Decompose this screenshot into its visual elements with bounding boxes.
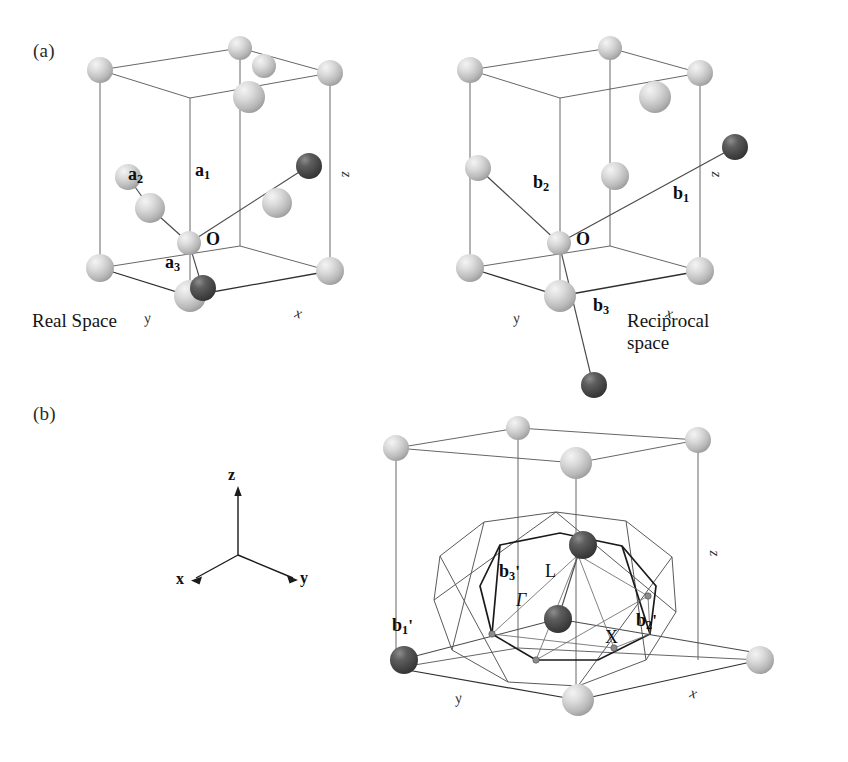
origin-label-reciprocal: O [576,229,590,250]
axis-label-z-real: z [338,172,355,178]
bz-vertex [489,631,495,637]
vector-label-b2prime: b2' [636,610,657,633]
atom-corner [86,254,114,282]
atom-interior [465,155,491,181]
vector-base-b1prime: b [392,615,402,635]
atom-corner [456,254,484,282]
vector-base-b3prime: b [499,561,509,581]
atom-corner [383,435,409,461]
brillouin-zone-cube [383,416,774,716]
vector-prime-b1prime: ' [408,616,413,635]
triad-arrow-z [234,486,241,496]
triad-label-x: x [176,570,184,588]
vector-sub-a3: 3 [174,260,180,274]
atom-dark-upper [569,531,597,559]
atom-corner [685,427,711,453]
triad-axis-y [238,555,293,578]
atom-corner [687,60,713,86]
vector-base-a1: a [195,160,204,180]
atom-dark-b1prime [390,646,418,674]
real-space-cube [86,36,344,312]
vector-prime-b2prime: ' [652,611,657,630]
vector-label-a3: a3 [165,252,180,275]
atom-corner [228,36,252,60]
bz-polyhedron [480,533,656,660]
triad-label-z: z [228,466,235,484]
triad-axis-x [196,555,238,578]
vector-sub-b1: 1 [683,191,689,205]
atom-dark [190,275,216,301]
axis-label-z-bz: z [706,551,723,557]
atom-dark [296,153,322,179]
vector-label-b1: b1 [673,183,689,206]
atom-interior [135,193,165,223]
atom-interior [601,162,629,190]
atom-face [639,81,671,113]
caption-real-space: Real Space [32,310,117,332]
atom-corner [562,684,594,716]
vector-base-b2prime: b [636,610,646,630]
triad-label-y: y [300,569,308,587]
atom-corner [544,280,576,312]
atom-corner [746,646,774,674]
vector-line-b1prime [408,619,558,658]
atom-origin [177,231,201,255]
atom-corner [506,416,530,440]
vector-label-b3prime: b3' [499,561,520,584]
atom-interior [262,188,292,218]
axis-label-z-reciprocal: z [708,172,725,178]
bz-vector-lines [408,555,752,658]
atom-corner [598,36,622,60]
real-space-vector-lines [128,167,307,283]
vector-label-b2: b2 [533,172,549,195]
panel-label-a: (a) [33,40,55,62]
vector-label-b1prime: b1' [392,615,413,638]
vector-sub-a2: 2 [137,172,143,186]
figure-graphics [0,0,848,762]
atom-face [560,447,592,479]
atom-corner [87,57,113,83]
symmetry-point-gamma: Γ [516,590,526,611]
bz-cube-atoms [383,416,774,716]
vector-base-b3: b [593,295,603,315]
vector-sub-a1: 1 [204,168,210,182]
vector-label-b3: b3 [593,295,609,318]
atom-corner [457,57,483,83]
atom-origin [547,231,571,255]
symmetry-point-X: X [605,627,618,648]
symmetry-point-L: L [545,561,556,582]
atom-dark [581,372,607,398]
bz-vertex [645,593,651,599]
atom-dark [722,134,748,160]
figure-root: (a) (b) a2 a1 a3 O Real Space y x z b2 b… [0,0,848,762]
vector-label-a2: a2 [128,164,143,187]
atom-face [233,81,265,113]
panel-label-b: (b) [33,403,56,425]
vector-base-b1: b [673,183,683,203]
atom-dark-gamma [544,605,572,633]
bz-vertex [533,657,539,663]
vector-base-a2: a [128,164,137,184]
vector-sub-b2: 2 [543,180,549,194]
atom-corner [686,257,714,285]
axis-triad [191,486,298,585]
vector-base-a3: a [165,252,174,272]
atom-corner [317,60,343,86]
vector-label-a1: a1 [195,160,210,183]
vector-prime-b3prime: ' [515,562,520,581]
vector-base-b2: b [533,172,543,192]
origin-label-real: O [206,229,220,250]
atom-face [252,54,276,78]
atom-corner [316,257,344,285]
triad-arrow-y [287,576,298,584]
vector-sub-b3: 3 [603,303,609,317]
